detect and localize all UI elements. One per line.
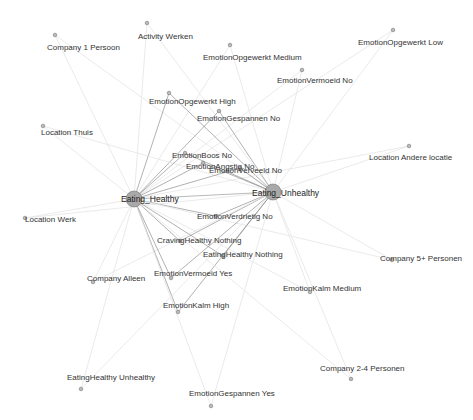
graph-node[interactable] bbox=[176, 310, 180, 314]
graph-node[interactable] bbox=[300, 68, 304, 72]
hub-label: Eating_Unhealthy bbox=[252, 188, 320, 198]
network-graph: Company 1 PersoonActivity WerkenEmotionO… bbox=[0, 0, 473, 420]
graph-node[interactable] bbox=[79, 387, 83, 391]
graph-node[interactable] bbox=[209, 404, 213, 408]
node-label: Company 1 Persoon bbox=[47, 43, 120, 52]
node-label: Location Thuis bbox=[41, 128, 93, 137]
graph-node[interactable] bbox=[167, 91, 171, 95]
node-label: Company 5+ Personen bbox=[380, 254, 462, 263]
graph-edge bbox=[273, 192, 392, 260]
graph-node[interactable] bbox=[53, 33, 57, 37]
node-label: Location Werk bbox=[25, 215, 77, 224]
node-label: EmotionVerveeld No bbox=[209, 166, 282, 175]
node-label: Company 2-4 Personen bbox=[320, 364, 405, 373]
node-label: CravingHealthy Nothing bbox=[157, 236, 242, 245]
node-label: EmotionGespannen No bbox=[197, 114, 281, 123]
graph-node[interactable] bbox=[349, 377, 353, 381]
node-label: EmotionOpgewerkt Medium bbox=[203, 53, 302, 62]
graph-edge bbox=[55, 35, 134, 199]
node-label: Location Andere locatie bbox=[369, 153, 453, 162]
graph-node[interactable] bbox=[228, 43, 232, 47]
node-label: Activity Werken bbox=[138, 32, 193, 41]
node-label: EmotionKalm Medium bbox=[283, 284, 362, 293]
node-label: EmotionOpgewerkt Low bbox=[358, 38, 443, 47]
graph-edge bbox=[134, 23, 147, 199]
node-label: Company Alleen bbox=[87, 274, 145, 283]
node-label: EmotionVermoeid Yes bbox=[154, 269, 232, 278]
node-label: EmotionKalm High bbox=[163, 301, 229, 310]
graph-node[interactable] bbox=[407, 144, 411, 148]
node-label: EatingHealthy Unhealthy bbox=[67, 373, 155, 382]
hub-label: Eating_Healthy bbox=[121, 194, 179, 204]
node-label: EmotionBoos No bbox=[172, 151, 233, 160]
graph-edge bbox=[93, 199, 134, 282]
node-label: EmotionOpgewerkt High bbox=[149, 97, 236, 106]
node-label: EatingHealthy Nothing bbox=[203, 250, 283, 259]
graph-labels: Company 1 PersoonActivity WerkenEmotionO… bbox=[25, 32, 462, 398]
graph-node[interactable] bbox=[391, 28, 395, 32]
graph-node[interactable] bbox=[217, 109, 221, 113]
node-label: EmotionGespannen Yes bbox=[189, 389, 275, 398]
node-label: EmotionVermoeid No bbox=[277, 76, 353, 85]
graph-edge bbox=[273, 192, 310, 292]
graph-node[interactable] bbox=[145, 21, 149, 25]
graph-edge bbox=[81, 199, 134, 389]
node-label: EmotionVerdrietig No bbox=[197, 212, 273, 221]
graph-edge bbox=[134, 70, 302, 199]
